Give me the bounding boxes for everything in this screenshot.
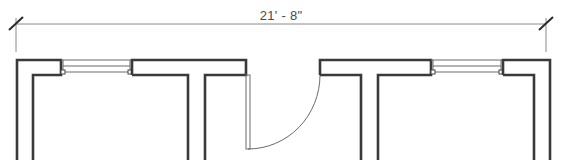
right-corner-wall bbox=[503, 60, 550, 160]
left-t-wall bbox=[132, 60, 246, 160]
dimension-line bbox=[9, 17, 553, 52]
door-swing-arc bbox=[248, 75, 320, 149]
floor-plan-svg bbox=[0, 0, 562, 166]
floor-plan-drawing: 21' - 8" bbox=[0, 0, 562, 166]
left-corner-wall bbox=[17, 60, 61, 160]
right-window bbox=[431, 60, 503, 74]
left-window bbox=[61, 60, 132, 74]
swing-door bbox=[246, 75, 320, 149]
right-t-wall bbox=[320, 60, 431, 160]
